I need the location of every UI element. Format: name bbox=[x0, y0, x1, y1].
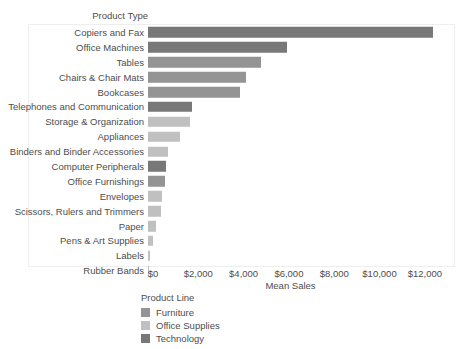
bar-track bbox=[148, 159, 476, 174]
x-tick-label: $12,000 bbox=[408, 268, 442, 279]
bar[interactable] bbox=[148, 191, 162, 202]
legend-item[interactable]: Office Supplies bbox=[141, 319, 220, 332]
bar[interactable] bbox=[148, 102, 192, 113]
bar[interactable] bbox=[148, 72, 246, 83]
bar-category-label: Paper bbox=[0, 221, 148, 232]
legend-swatch-icon bbox=[141, 321, 150, 330]
bar-category-label: Office Furnishings bbox=[0, 176, 148, 187]
bar-track bbox=[148, 40, 476, 55]
bar-row: Computer Peripherals bbox=[0, 159, 476, 174]
bar-track bbox=[148, 114, 476, 129]
x-tick-label: $2,000 bbox=[184, 268, 213, 279]
bar-row: Chairs & Chair Mats bbox=[0, 70, 476, 85]
x-tick-label: $6,000 bbox=[274, 268, 303, 279]
bar[interactable] bbox=[148, 236, 153, 247]
bar-track bbox=[148, 204, 476, 219]
bar[interactable] bbox=[148, 251, 150, 262]
bar-category-label: Telephones and Communication bbox=[0, 101, 148, 112]
x-tick-label: $8,000 bbox=[320, 268, 349, 279]
bar-track bbox=[148, 248, 476, 263]
bar-category-label: Labels bbox=[0, 250, 148, 261]
bar-chart: Product Type Copiers and FaxOffice Machi… bbox=[0, 0, 476, 349]
bar-row: Storage & Organization bbox=[0, 114, 476, 129]
bar-track bbox=[148, 189, 476, 204]
bar-row: Bookcases bbox=[0, 85, 476, 100]
bar[interactable] bbox=[148, 221, 156, 232]
bar-row: Office Machines bbox=[0, 40, 476, 55]
bar-category-label: Tables bbox=[0, 57, 148, 68]
legend: Product Line FurnitureOffice SuppliesTec… bbox=[141, 292, 220, 345]
legend-label: Office Supplies bbox=[156, 320, 220, 331]
legend-swatch-icon bbox=[141, 308, 150, 317]
bar-row: Binders and Binder Accessories bbox=[0, 144, 476, 159]
bar-row: Copiers and Fax bbox=[0, 25, 476, 40]
bar-row: Scissors, Rulers and Trimmers bbox=[0, 204, 476, 219]
bar-category-label: Pens & Art Supplies bbox=[0, 235, 148, 246]
bar-category-label: Binders and Binder Accessories bbox=[0, 146, 148, 157]
bar-track bbox=[148, 99, 476, 114]
bar[interactable] bbox=[148, 146, 168, 157]
bar-category-label: Bookcases bbox=[0, 87, 148, 98]
bar-row: Appliances bbox=[0, 129, 476, 144]
bar[interactable] bbox=[148, 27, 433, 38]
x-tick-label: $10,000 bbox=[362, 268, 396, 279]
x-tick-label: $4,000 bbox=[229, 268, 258, 279]
bar-row: Labels bbox=[0, 248, 476, 263]
bar[interactable] bbox=[148, 206, 161, 217]
bar-track bbox=[148, 233, 476, 248]
bar-row: Office Furnishings bbox=[0, 174, 476, 189]
x-tick-label: $0 bbox=[148, 268, 159, 279]
legend-label: Technology bbox=[156, 333, 204, 344]
y-axis-field-title: Product Type bbox=[0, 10, 148, 21]
bar-row: Tables bbox=[0, 55, 476, 70]
bar-category-label: Appliances bbox=[0, 131, 148, 142]
bar-track bbox=[148, 129, 476, 144]
bar-track bbox=[148, 219, 476, 234]
bar-track bbox=[148, 25, 476, 40]
bar-row: Envelopes bbox=[0, 189, 476, 204]
bar-track bbox=[148, 55, 476, 70]
bar-rows: Copiers and FaxOffice MachinesTablesChai… bbox=[0, 25, 476, 278]
bar[interactable] bbox=[148, 131, 180, 142]
bar-category-label: Copiers and Fax bbox=[0, 27, 148, 38]
legend-items: FurnitureOffice SuppliesTechnology bbox=[141, 306, 220, 345]
legend-label: Furniture bbox=[156, 307, 194, 318]
bar-track bbox=[148, 85, 476, 100]
bar-track bbox=[148, 70, 476, 85]
legend-item[interactable]: Technology bbox=[141, 332, 220, 345]
bar-track bbox=[148, 144, 476, 159]
bar[interactable] bbox=[148, 87, 240, 98]
bar[interactable] bbox=[148, 57, 261, 68]
bar-category-label: Storage & Organization bbox=[0, 116, 148, 127]
bar[interactable] bbox=[148, 42, 287, 53]
bar-category-label: Envelopes bbox=[0, 191, 148, 202]
bar-category-label: Office Machines bbox=[0, 42, 148, 53]
bar-category-label: Chairs & Chair Mats bbox=[0, 72, 148, 83]
bar[interactable] bbox=[148, 161, 166, 172]
bar-track bbox=[148, 174, 476, 189]
bar[interactable] bbox=[148, 176, 165, 187]
legend-swatch-icon bbox=[141, 334, 150, 343]
bar-category-label: Computer Peripherals bbox=[0, 161, 148, 172]
legend-item[interactable]: Furniture bbox=[141, 306, 220, 319]
legend-title: Product Line bbox=[141, 292, 220, 303]
x-axis-title: Mean Sales bbox=[153, 280, 428, 291]
bar-row: Pens & Art Supplies bbox=[0, 233, 476, 248]
bar-row: Telephones and Communication bbox=[0, 99, 476, 114]
bar-category-label: Scissors, Rulers and Trimmers bbox=[0, 206, 148, 217]
bar[interactable] bbox=[148, 117, 190, 128]
bar-row: Paper bbox=[0, 219, 476, 234]
